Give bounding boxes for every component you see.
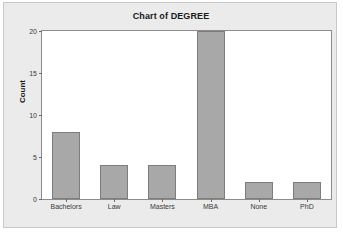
bar <box>100 165 128 199</box>
bar <box>293 182 321 199</box>
y-axis-tick-mark <box>39 199 42 200</box>
y-axis-label: Count <box>18 52 27 132</box>
x-axis-tick-mark <box>66 199 67 202</box>
y-axis-tick-label: 20 <box>8 28 42 35</box>
x-axis-tick-label: None <box>250 203 267 210</box>
x-axis-tick-label: Masters <box>150 203 175 210</box>
x-axis-tick-mark <box>114 199 115 202</box>
y-axis-tick-label: 15 <box>8 70 42 77</box>
bar <box>245 182 273 199</box>
x-axis-tick-label: Law <box>108 203 121 210</box>
plot-area: 05101520BachelorsLawMastersMBANonePhD <box>41 30 332 200</box>
x-axis-tick-mark <box>211 199 212 202</box>
bar <box>148 165 176 199</box>
plot-inner: 05101520BachelorsLawMastersMBANonePhD <box>42 31 331 199</box>
y-axis-tick-mark <box>39 115 42 116</box>
x-axis-tick-label: PhD <box>300 203 314 210</box>
y-axis-tick-mark <box>39 157 42 158</box>
x-axis-tick-mark <box>162 199 163 202</box>
y-axis-tick-mark <box>39 31 42 32</box>
y-axis-tick-mark <box>39 73 42 74</box>
chart-panel: Chart of DEGREE Count DEGREE 05101520Bac… <box>3 2 337 228</box>
bar <box>197 31 225 199</box>
x-axis-tick-mark <box>259 199 260 202</box>
y-axis-tick-label: 5 <box>8 154 42 161</box>
x-axis-tick-label: Bachelors <box>51 203 82 210</box>
x-axis-tick-mark <box>307 199 308 202</box>
chart-title: Chart of DEGREE <box>4 11 338 21</box>
x-axis-tick-label: MBA <box>203 203 218 210</box>
bar <box>52 132 80 199</box>
y-axis-tick-label: 10 <box>8 112 42 119</box>
y-axis-tick-label: 0 <box>8 196 42 203</box>
